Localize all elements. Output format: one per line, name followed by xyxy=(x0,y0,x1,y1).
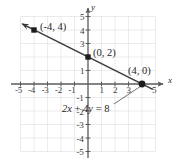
line-equation-label: 2x + 4y = 8 xyxy=(62,104,109,115)
y-tick-label-3: 3 xyxy=(80,40,84,49)
point-marker-4-0 xyxy=(139,81,146,88)
x-axis-label: x xyxy=(168,76,172,85)
y-tick-label-1: 1 xyxy=(80,67,84,76)
y-tick-label-minus3: -3 xyxy=(77,121,84,130)
x-tick-label-3: 3 xyxy=(127,86,131,95)
x-tick-label-2: 2 xyxy=(113,86,117,95)
x-tick-label-1: 1 xyxy=(100,86,104,95)
x-tick-label-minus5: -5 xyxy=(15,86,22,95)
y-tick-label-5: 5 xyxy=(80,13,84,22)
y-tick-label-minus5: -5 xyxy=(77,148,84,157)
x-tick-label-5: 5 xyxy=(152,86,156,95)
x-tick-label-minus1: -1 xyxy=(69,86,76,95)
point-marker-0-2 xyxy=(85,54,90,59)
equation-term-2x: 2x xyxy=(62,103,72,114)
coordinate-plane-figure: -5 -4 -3 -2 -1 1 2 3 5 5 4 3 1 -1 -2 -3 … xyxy=(0,0,181,164)
point-label-0-2: (0, 2) xyxy=(93,48,116,59)
point-marker-minus4-4 xyxy=(31,27,36,32)
y-tick-label-4: 4 xyxy=(80,27,84,36)
graph-canvas xyxy=(0,0,181,164)
point-label-4-0: (4, 0) xyxy=(128,66,151,77)
equation-term-4y: 4y xyxy=(83,103,93,114)
x-tick-label-minus3: -3 xyxy=(42,86,49,95)
y-tick-label-minus1: -1 xyxy=(77,94,84,103)
y-tick-label-minus4: -4 xyxy=(77,135,84,144)
x-tick-label-minus4: -4 xyxy=(28,86,35,95)
y-axis-label: y xyxy=(91,3,95,12)
equation-plus-sign: + xyxy=(75,103,81,114)
x-tick-label-minus2: -2 xyxy=(55,86,62,95)
equation-equals-sign: = xyxy=(96,103,102,114)
point-label-minus4-4: (-4, 4) xyxy=(40,22,66,33)
equation-rhs-value: 8 xyxy=(104,103,109,114)
